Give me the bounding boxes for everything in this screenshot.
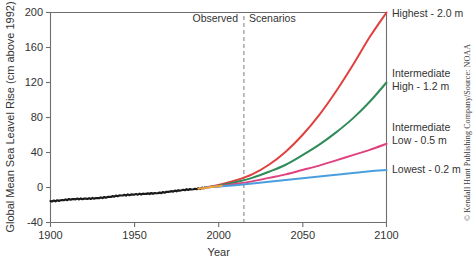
x-axis-tick-labels: 1900 1950 2000 2050 2100 (38, 229, 398, 241)
x-tick-label-2100: 2100 (374, 229, 398, 241)
series-label-intermediate-high-2: High - 1.2 m (392, 80, 449, 92)
observed-annotation: Observed (192, 12, 238, 24)
y-axis-ticks (46, 13, 51, 223)
x-tick-label-2050: 2050 (291, 229, 315, 241)
series-label-lowest: Lowest - 0.2 m (392, 163, 461, 175)
y-tick-label-40: 40 (31, 146, 43, 158)
series-label-highest: Highest - 2.0 m (392, 7, 463, 19)
chart-canvas: 200 160 120 80 40 0 -40 1900 1950 2000 2… (0, 0, 476, 265)
x-tick-label-2000: 2000 (206, 229, 230, 241)
y-tick-label-0: 0 (37, 181, 43, 193)
series-line-observed (51, 188, 206, 202)
y-tick-label-80: 80 (31, 111, 43, 123)
y-tick-label-120: 120 (25, 76, 43, 88)
x-axis-ticks (51, 223, 387, 228)
y-tick-label-neg40: -40 (27, 216, 43, 228)
y-axis-tick-labels: 200 160 120 80 40 0 -40 (25, 6, 43, 228)
axes-frame (51, 12, 388, 223)
series-label-intermediate-low-2: Low - 0.5 m (392, 134, 447, 146)
credit-line: © Kendall Hunt Publishing Company/Source… (461, 0, 475, 265)
y-axis-title: Global Mean Sea Leavel Rise (cm above 19… (4, 1, 16, 232)
x-tick-label-1900: 1900 (38, 229, 62, 241)
series-label-intermediate-high-1: Intermediate (392, 67, 451, 79)
scenarios-annotation: Scenarios (249, 12, 296, 24)
series-line-highest (205, 13, 386, 188)
x-tick-label-1950: 1950 (122, 229, 146, 241)
sea-level-rise-figure: 200 160 120 80 40 0 -40 1900 1950 2000 2… (0, 0, 476, 265)
y-tick-label-200: 200 (25, 6, 43, 18)
x-axis-title: Year (208, 246, 231, 258)
credit-text: © Kendall Hunt Publishing Company/Source… (464, 44, 473, 221)
series-labels: Highest - 2.0 m Intermediate High - 1.2 … (392, 7, 463, 175)
series-label-intermediate-low-1: Intermediate (392, 121, 451, 133)
y-tick-label-160: 160 (25, 41, 43, 53)
series-layer (51, 13, 387, 202)
